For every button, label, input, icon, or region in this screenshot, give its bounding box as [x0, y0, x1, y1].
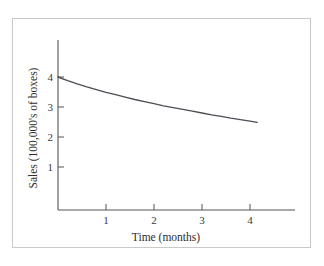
x-tick-label-2: 2: [151, 214, 157, 226]
y-axis-title: Sales (100,000's of boxes): [27, 67, 40, 188]
y-tick-label-2: 2: [48, 131, 54, 143]
figure-root: 4 3 2 1 1 2 3 4 Time (months) Sales (100…: [0, 0, 324, 266]
sales-decay-curve: [58, 77, 257, 122]
sales-decay-line-chart: 4 3 2 1 1 2 3 4 Time (months) Sales (100…: [0, 0, 324, 266]
x-tick-label-4: 4: [247, 214, 253, 226]
y-tick-label-4: 4: [48, 71, 54, 83]
x-tick-label-1: 1: [103, 214, 109, 226]
y-tick-label-3: 3: [48, 101, 54, 113]
x-tick-label-3: 3: [199, 214, 205, 226]
x-axis-title: Time (months): [132, 231, 200, 244]
y-tick-label-1: 1: [48, 161, 54, 173]
